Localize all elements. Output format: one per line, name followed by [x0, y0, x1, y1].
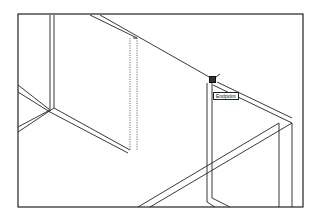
drawing-edge[interactable]: [100, 15, 211, 78]
viewport-frame: [18, 14, 303, 207]
snap-tooltip: Endpoint: [213, 92, 239, 100]
drawing-edge[interactable]: [18, 108, 54, 132]
drawing-edge[interactable]: [138, 123, 279, 207]
cad-drawing-canvas[interactable]: [0, 0, 320, 218]
drawing-edge[interactable]: [90, 15, 137, 38]
drawing-edge[interactable]: [217, 82, 292, 118]
drawing-edge[interactable]: [18, 92, 50, 112]
drawing-edge[interactable]: [207, 202, 215, 207]
drawing-edge[interactable]: [18, 110, 50, 127]
drawing-edge[interactable]: [150, 123, 292, 207]
drawing-edge[interactable]: [50, 112, 128, 153]
hidden-edges: [130, 38, 137, 150]
drawing-edge[interactable]: [54, 108, 130, 150]
solid-edges: [18, 15, 292, 207]
endpoint-snap-marker-icon: [209, 76, 216, 83]
drawing-edge[interactable]: [18, 85, 50, 110]
drawing-viewport[interactable]: Endpoint: [0, 0, 320, 218]
drawing-edge[interactable]: [212, 198, 230, 207]
drawing-edge[interactable]: [213, 85, 292, 123]
